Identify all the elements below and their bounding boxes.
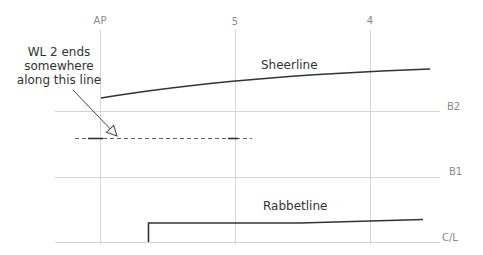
rabbetline-label: Rabbetline bbox=[263, 200, 327, 212]
station-label-4: 4 bbox=[367, 16, 373, 26]
sheerline-label: Sheerline bbox=[261, 59, 318, 71]
buttock-label-b1: B1 bbox=[449, 167, 462, 177]
centerline-label: C/L bbox=[442, 233, 458, 243]
sheerline-curve bbox=[101, 69, 430, 98]
annotation-line-3: along this line bbox=[9, 73, 109, 87]
annotation-line-1: WL 2 ends bbox=[9, 45, 109, 59]
station-label-ap: AP bbox=[94, 16, 107, 26]
annotation-line-2: somewhere bbox=[9, 59, 109, 73]
buttock-label-b2: B2 bbox=[447, 102, 460, 112]
rabbetline-curve bbox=[149, 220, 424, 243]
wl2-annotation-note: WL 2 ends somewhere along this line bbox=[9, 45, 109, 87]
hull-profile-diagram bbox=[0, 0, 483, 255]
station-label-5: 5 bbox=[232, 17, 238, 27]
